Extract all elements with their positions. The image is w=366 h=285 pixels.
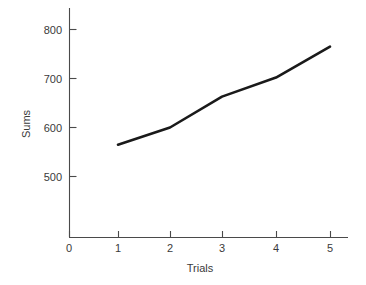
line-chart: 800 700 600 500 0 1 2 3 4 5 Trials Sums bbox=[0, 0, 366, 285]
x-tick-label-5: 5 bbox=[327, 242, 333, 254]
x-tick-label-0: 0 bbox=[66, 242, 72, 254]
y-tick-label-700: 700 bbox=[44, 73, 62, 85]
chart-container: 800 700 600 500 0 1 2 3 4 5 Trials Sums bbox=[0, 0, 366, 285]
y-tick-label-800: 800 bbox=[44, 24, 62, 36]
y-tick-label-600: 600 bbox=[44, 122, 62, 134]
x-tick-label-2: 2 bbox=[167, 242, 173, 254]
y-tick-label-500: 500 bbox=[44, 171, 62, 183]
x-tick-label-3: 3 bbox=[219, 242, 225, 254]
x-tick-label-1: 1 bbox=[115, 242, 121, 254]
data-series-line bbox=[118, 47, 330, 145]
x-axis-title: Trials bbox=[187, 262, 214, 274]
y-axis-title: Sums bbox=[20, 109, 32, 138]
x-tick-label-4: 4 bbox=[273, 242, 279, 254]
